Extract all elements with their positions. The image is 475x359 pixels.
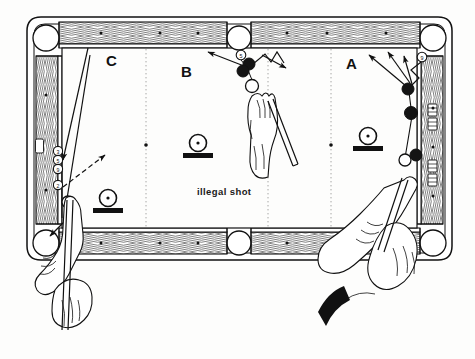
shirt-shadow xyxy=(318,286,350,326)
top-left-corner-pocket xyxy=(33,25,59,51)
cloth-spot xyxy=(329,143,333,147)
top-right-corner-pocket xyxy=(420,25,446,51)
pool-table-drawing: 3 5 9 2 5 9 xyxy=(0,0,475,359)
bottom-right-corner-pocket xyxy=(420,230,446,256)
rail-bottom-left xyxy=(59,228,227,254)
object-ball xyxy=(410,149,422,161)
numbered-ball-2: 2 xyxy=(53,180,62,189)
svg-text:5: 5 xyxy=(57,158,60,164)
rail-clamp xyxy=(428,160,437,172)
rail-clamp xyxy=(428,104,437,116)
pool-table-figure: 3 5 9 2 5 9 xyxy=(0,0,475,359)
bottom-side-pocket xyxy=(227,231,251,255)
numbered-ball-5: 5 xyxy=(53,155,62,164)
cue-ball xyxy=(246,80,259,93)
rail-top-right xyxy=(251,22,420,48)
object-ball xyxy=(402,83,414,95)
top-side-pocket xyxy=(227,26,251,50)
rail-clamp xyxy=(36,139,44,153)
cloth-spot xyxy=(144,143,148,147)
numbered-ball-3: 3 xyxy=(53,146,62,155)
numbered-ball-9-zone-a: 9 xyxy=(417,52,427,62)
numbered-ball-5-zone-b: 5 xyxy=(236,50,246,60)
numbered-ball-9: 9 xyxy=(53,164,62,173)
rail-top-left xyxy=(59,22,227,48)
rail-right xyxy=(417,56,443,224)
figure-caption: illegal shot xyxy=(197,186,251,197)
svg-text:5: 5 xyxy=(240,53,243,59)
svg-text:9: 9 xyxy=(421,55,424,61)
object-ball xyxy=(237,65,249,77)
svg-text:3: 3 xyxy=(57,149,60,155)
rail-clamp xyxy=(428,174,437,186)
svg-text:9: 9 xyxy=(57,167,60,173)
bottom-left-corner-pocket xyxy=(33,230,59,256)
rail-clamp xyxy=(428,118,437,130)
zone-label-a: A xyxy=(346,55,357,72)
zone-label-b: B xyxy=(181,63,192,80)
zone-label-c: C xyxy=(106,52,117,69)
svg-text:2: 2 xyxy=(57,183,60,189)
cue-ball xyxy=(399,154,411,166)
object-ball xyxy=(405,107,418,120)
